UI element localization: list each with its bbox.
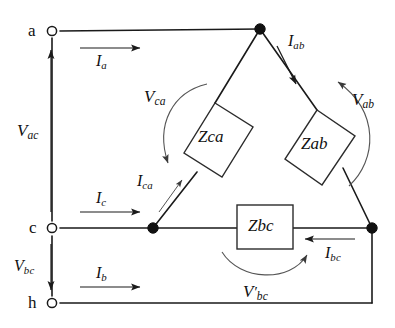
i-bc-sub: bc	[330, 251, 341, 263]
impedance-label-z-bc: Zbc	[248, 217, 274, 234]
i-ab-sub: ab	[293, 39, 304, 51]
i-b-sub: b	[101, 271, 107, 283]
circuit-diagram: a c h Zca Zab Zbc Ia Ic Ib Iab Ibc Ica V…	[0, 0, 395, 328]
i-ca-sub: ca	[142, 179, 153, 191]
node-left	[148, 223, 158, 233]
node-right	[367, 223, 377, 233]
voltage-label-v-bc-prime: V′bc	[243, 283, 268, 303]
v-ac-base: V	[17, 121, 27, 140]
circuit-svg	[0, 0, 395, 328]
v-ab-sub: ab	[362, 98, 374, 111]
voltage-label-v-ac: Vac	[17, 122, 39, 142]
v-bc-prime-sub: bc	[257, 290, 268, 303]
impedance-label-z-ab: Zab	[301, 135, 327, 152]
terminal-h-circle[interactable]	[47, 298, 56, 307]
current-label-i-ca: Ica	[137, 173, 153, 191]
wire-line-a	[60, 29, 260, 31]
current-label-i-ab: Iab	[288, 33, 305, 51]
impedance-label-z-ca: Zca	[198, 128, 224, 145]
v-bc-base: V	[14, 257, 24, 274]
terminal-label-a: a	[28, 22, 36, 39]
voltage-label-v-ca: Vca	[144, 88, 166, 108]
v-ca-base: V	[144, 87, 154, 106]
v-ab-base: V	[352, 90, 362, 109]
voltage-v-bc-prime-arc	[222, 252, 307, 275]
current-label-i-bc: Ibc	[325, 245, 341, 263]
v-ca-sub: ca	[154, 95, 165, 108]
voltage-label-v-ab: Vab	[352, 91, 374, 111]
terminal-c-circle[interactable]	[47, 223, 56, 232]
terminal-label-c: c	[29, 219, 37, 236]
current-label-i-a: Ia	[96, 53, 107, 71]
v-bc-sub: bc	[24, 264, 35, 276]
z-ca-sub: ca	[207, 127, 223, 146]
current-label-i-b: Ib	[96, 265, 107, 283]
voltage-label-v-bc: Vbc	[14, 258, 34, 276]
v-bc-prime-base: V	[243, 282, 253, 301]
current-label-i-c: Ic	[96, 190, 106, 208]
terminal-a-circle[interactable]	[47, 26, 56, 35]
i-a-sub: a	[101, 59, 107, 71]
current-i-ab-arrow	[277, 46, 296, 84]
node-apex	[255, 24, 265, 34]
z-ab-sub: ab	[310, 134, 327, 153]
v-ac-sub: ac	[27, 129, 38, 142]
i-c-sub: c	[101, 196, 106, 208]
terminal-label-h: h	[28, 294, 37, 311]
z-bc-sub: bc	[257, 216, 273, 235]
